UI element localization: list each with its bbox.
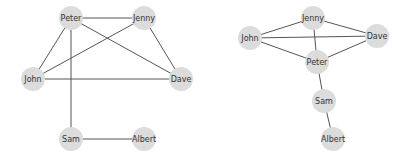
- node-peter: Peter: [59, 6, 83, 30]
- node-label: Peter: [61, 14, 83, 23]
- node-john: John: [21, 67, 45, 91]
- node-label: Albert: [321, 135, 345, 144]
- node-albert: Albert: [321, 127, 345, 151]
- edges-left: [33, 18, 181, 139]
- node-label: John: [240, 34, 258, 43]
- graph-canvas: PeterJennyJohnDaveSamAlbert JennyJohnDav…: [0, 0, 407, 158]
- node-label: Jenny: [132, 14, 155, 23]
- node-label: Albert: [132, 135, 156, 144]
- node-sam: Sam: [312, 89, 336, 113]
- edge-john-dave: [250, 36, 377, 38]
- node-sam: Sam: [59, 127, 83, 151]
- node-label: Peter: [307, 58, 329, 67]
- node-jenny: Jenny: [132, 6, 156, 30]
- graph-left: PeterJennyJohnDaveSamAlbert: [21, 6, 193, 151]
- node-label: Sam: [315, 97, 333, 106]
- node-jenny: Jenny: [301, 6, 325, 30]
- node-label: John: [23, 75, 41, 84]
- nodes-right: JennyJohnDavePeterSamAlbert: [238, 6, 389, 151]
- node-john: John: [238, 26, 262, 50]
- node-label: Sam: [62, 135, 80, 144]
- node-albert: Albert: [132, 127, 156, 151]
- node-peter: Peter: [305, 50, 329, 74]
- node-label: Dave: [171, 75, 192, 84]
- node-label: Jenny: [301, 14, 324, 23]
- edges-right: [250, 18, 377, 139]
- graph-right: JennyJohnDavePeterSamAlbert: [238, 6, 389, 151]
- node-label: Dave: [367, 32, 388, 41]
- node-dave: Dave: [365, 24, 389, 48]
- node-dave: Dave: [169, 67, 193, 91]
